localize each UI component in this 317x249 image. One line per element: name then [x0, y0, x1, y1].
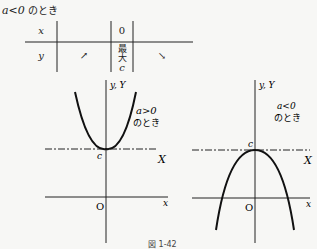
- X-axis-label: X: [157, 153, 167, 166]
- note-condition: a>0: [136, 105, 157, 116]
- x-zero-cell: 0: [111, 25, 133, 36]
- note-suffix: のとき: [274, 113, 301, 123]
- figure-caption: 図 1-42: [148, 238, 177, 249]
- max-text: 最大: [118, 44, 127, 62]
- condition-heading: a<0 のとき: [2, 2, 58, 17]
- x-axis-label: x: [163, 198, 168, 208]
- vertex-label: c: [97, 151, 102, 161]
- note-condition: a<0: [277, 101, 296, 111]
- max-value: c: [111, 62, 133, 73]
- increasing-arrow: ↗: [73, 50, 95, 61]
- X-axis-label: X: [303, 154, 313, 167]
- right-parabola-graph: y, Y x X O c a<0 のとき: [180, 80, 317, 245]
- y-axis-label: y, Y: [258, 80, 276, 90]
- decreasing-arrow: ↘: [151, 50, 173, 61]
- y-axis-label: y, Y: [109, 80, 127, 90]
- condition-suffix: のとき: [28, 5, 58, 16]
- vertex-label: c: [248, 139, 253, 149]
- table-lines: [25, 18, 193, 74]
- row-x-label: x: [33, 25, 49, 36]
- note-suffix: のとき: [133, 118, 160, 128]
- left-parabola-graph: y, Y x X O c a>0 のとき: [40, 80, 180, 245]
- max-label: 最大: [111, 44, 133, 64]
- origin-label: O: [245, 202, 253, 213]
- row-y-label: y: [33, 50, 49, 61]
- condition-text: a<0: [2, 4, 25, 17]
- variation-table: x 0 y ↗ 最大 c ↘: [25, 18, 193, 74]
- x-axis-label: x: [306, 199, 311, 209]
- origin-label: O: [96, 201, 104, 212]
